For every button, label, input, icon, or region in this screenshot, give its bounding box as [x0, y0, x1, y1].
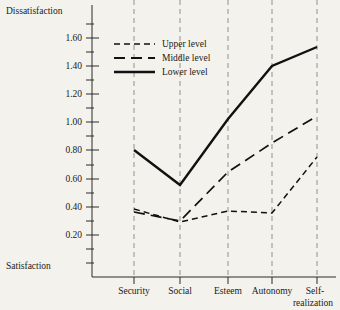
xtick-label-esteem: Esteem	[214, 286, 243, 296]
xtick-label-security: Security	[118, 286, 150, 296]
ytick-label-1.00: 1.00	[65, 117, 82, 127]
legend-label-lower-level: Lower level	[162, 67, 208, 77]
xtick-label-social: Social	[168, 286, 192, 296]
ytick-label-1.60: 1.60	[65, 33, 82, 43]
legend-label-upper-level: Upper level	[162, 39, 207, 49]
chart-figure: 1.60 1.40 1.20 1.00 0.80 0.60 0.40 0.20 …	[0, 0, 340, 310]
ytick-label-0.40: 0.40	[65, 202, 82, 212]
ytick-label-0.60: 0.60	[65, 174, 82, 184]
legend-label-middle-level: Middle level	[162, 53, 211, 63]
xtick-label-self-realization-line1: Self-	[306, 286, 324, 296]
xtick-label-self-realization-line2: realization	[293, 298, 333, 308]
y-axis-top-label: Dissatisfaction	[6, 6, 63, 16]
xtick-label-autonomy: Autonomy	[252, 286, 293, 296]
ytick-label-0.20: 0.20	[65, 230, 82, 240]
y-axis-bottom-label: Satisfaction	[6, 261, 51, 271]
ytick-label-1.20: 1.20	[65, 89, 82, 99]
ytick-label-0.80: 0.80	[65, 145, 82, 155]
line-chart-svg: 1.60 1.40 1.20 1.00 0.80 0.60 0.40 0.20 …	[0, 0, 340, 310]
ytick-label-1.40: 1.40	[65, 61, 82, 71]
